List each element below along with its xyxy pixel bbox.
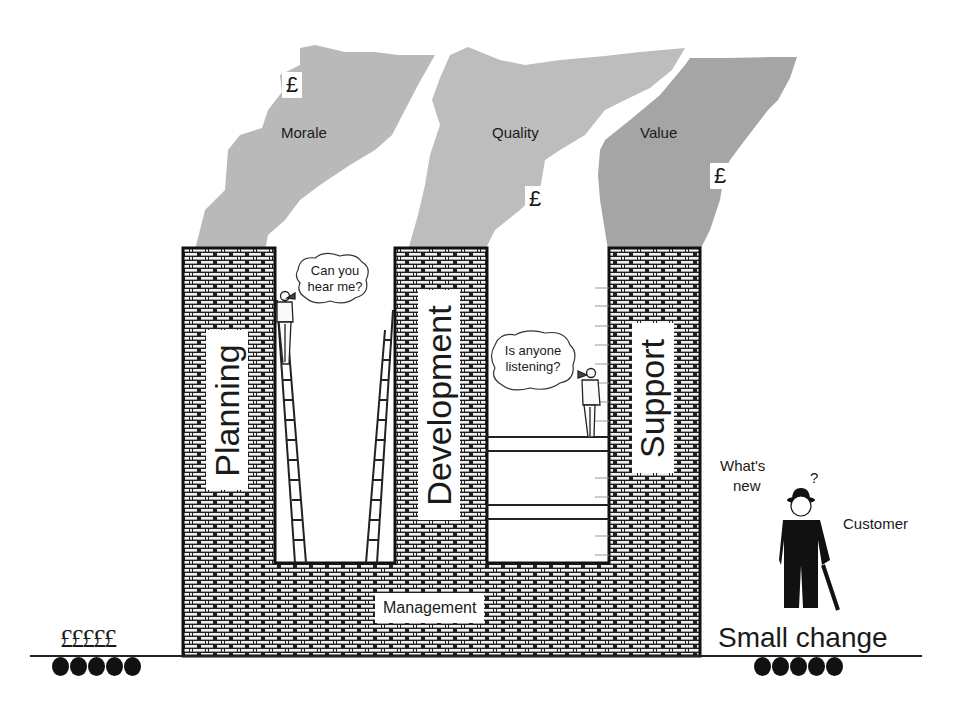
customer-question-mark: ? <box>810 470 818 485</box>
coin-icon <box>808 657 825 676</box>
coin-icon <box>772 657 789 676</box>
coin-icon <box>88 657 105 676</box>
pound-symbol-quality: £ <box>525 186 545 212</box>
speech-text-2: Is anyone listening? <box>497 343 569 375</box>
customer-thought-line1: What's <box>720 458 765 473</box>
customer-thought-line2: new <box>733 478 761 493</box>
silo-diagram: £ Morale Quality £ Value £ Planning Deve… <box>0 0 972 714</box>
left-pound-symbols: £££££ <box>60 624 115 654</box>
cloud-label-quality: Quality <box>492 125 539 140</box>
base-label-management: Management <box>375 593 484 623</box>
customer-figure <box>779 488 838 610</box>
wall-ticks <box>595 288 609 555</box>
pound-symbol-value: £ <box>710 163 730 189</box>
tower-label-development: Development <box>418 290 460 520</box>
cloud-morale <box>195 45 435 250</box>
coin-icon <box>70 657 87 676</box>
tower-label-planning: Planning <box>206 330 248 490</box>
person-shouting-right <box>578 369 600 438</box>
small-change-label: Small change <box>718 622 888 654</box>
speech-text-1: Can you hear me? <box>305 263 365 295</box>
coin-icon <box>754 657 771 676</box>
coin-icon <box>826 657 843 676</box>
diagram-canvas <box>0 0 972 714</box>
customer-label: Customer <box>843 516 908 531</box>
cloud-label-value: Value <box>640 125 677 140</box>
left-coins <box>52 657 141 676</box>
coin-icon <box>790 657 807 676</box>
coin-icon <box>52 657 69 676</box>
pound-symbol-morale: £ <box>282 72 302 98</box>
tower-label-support: Support <box>632 323 674 473</box>
cloud-label-morale: Morale <box>281 125 327 140</box>
coin-icon <box>106 657 123 676</box>
coin-icon <box>124 657 141 676</box>
ladder-right <box>366 310 393 563</box>
right-coins <box>754 657 843 676</box>
pit-steps <box>487 437 609 519</box>
